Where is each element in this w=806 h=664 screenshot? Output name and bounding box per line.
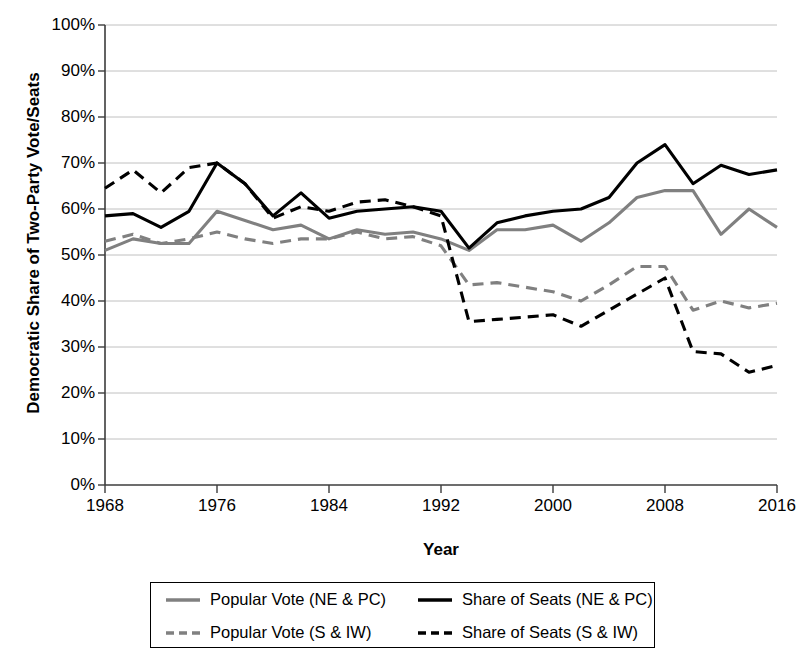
y-tick-label: 80%	[25, 108, 95, 125]
x-tick-label: 2000	[513, 497, 593, 514]
series-line-0	[105, 191, 777, 251]
y-tick-label: 70%	[25, 154, 95, 171]
y-tick-label: 100%	[25, 16, 95, 33]
legend-item[interactable]: Popular Vote (S & IW)	[151, 623, 403, 642]
legend-label: Popular Vote (NE & PC)	[210, 590, 386, 609]
x-tick-label: 1992	[401, 497, 481, 514]
y-tick-label: 90%	[25, 62, 95, 79]
x-axis-title: Year	[105, 540, 777, 560]
legend-swatch-icon	[417, 626, 453, 640]
chart-legend: Popular Vote (NE & PC)Share of Seats (NE…	[150, 582, 655, 648]
legend-item[interactable]: Share of Seats (NE & PC)	[403, 590, 656, 609]
x-tick-label: 1984	[289, 497, 369, 514]
y-tick-label: 20%	[25, 384, 95, 401]
x-tick-label: 1968	[65, 497, 145, 514]
y-tick-label: 0%	[25, 476, 95, 493]
legend-swatch-icon	[165, 626, 201, 640]
series-line-3	[105, 163, 777, 372]
legend-item[interactable]: Popular Vote (NE & PC)	[151, 590, 403, 609]
legend-swatch-icon	[417, 593, 453, 607]
legend-item[interactable]: Share of Seats (S & IW)	[403, 623, 656, 642]
y-tick-label: 40%	[25, 292, 95, 309]
y-tick-label: 60%	[25, 200, 95, 217]
chart-figure: Democratic Share of Two-Party Vote/Seats…	[0, 0, 806, 664]
plot-canvas	[0, 0, 806, 664]
x-tick-label: 2016	[737, 497, 806, 514]
legend-label: Share of Seats (NE & PC)	[462, 590, 653, 609]
series-line-2	[105, 232, 777, 310]
x-tick-label: 2008	[625, 497, 705, 514]
legend-swatch-icon	[165, 593, 201, 607]
legend-label: Popular Vote (S & IW)	[210, 623, 371, 642]
x-tick-label: 1976	[177, 497, 257, 514]
legend-label: Share of Seats (S & IW)	[462, 623, 638, 642]
series-line-1	[105, 145, 777, 249]
y-tick-label: 10%	[25, 430, 95, 447]
y-tick-label: 30%	[25, 338, 95, 355]
y-tick-label: 50%	[25, 246, 95, 263]
